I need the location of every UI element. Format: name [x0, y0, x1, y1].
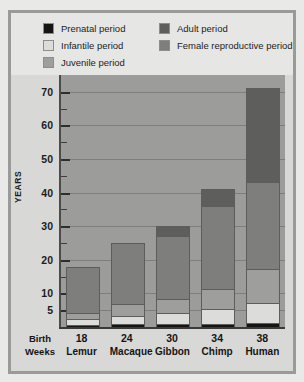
bar-gibbon[interactable] [156, 226, 190, 327]
legend-item-label: Female reproductive period [177, 40, 293, 51]
bar-segment-female-reproductive [202, 207, 234, 290]
birth-weeks-label: Birth Weeks [19, 332, 61, 358]
y-tick-label: 5 [47, 304, 53, 316]
bar-segment-adult [157, 227, 189, 237]
x-axis-category: 24Macaque [110, 332, 144, 358]
chart-legend: Prenatal periodInfantile periodJuvenile … [11, 13, 293, 75]
birth-weeks-line2: Weeks [19, 345, 61, 358]
x-axis-birth-weeks-value: 24 [110, 332, 144, 345]
y-tick-label: 60 [41, 119, 53, 131]
bar-segment-juvenile [67, 314, 99, 321]
bar-segment-adult [247, 89, 279, 183]
legend-item[interactable]: Female reproductive period [159, 37, 293, 53]
x-axis-category: 34Chimp [200, 332, 234, 358]
y-axis-ticks: 510203040506070 [25, 75, 59, 327]
bar-segment-infantile [247, 304, 279, 325]
x-axis-species-label: Gibbon [155, 345, 189, 358]
legend-item[interactable]: Adult period [159, 20, 293, 36]
bar-segment-juvenile [247, 270, 279, 303]
legend-swatch-adult-icon [159, 23, 170, 34]
chart-figure: Prenatal periodInfantile periodJuvenile … [8, 10, 296, 374]
x-axis-birth-weeks-value: 30 [155, 332, 189, 345]
y-tick-label: 50 [41, 153, 53, 165]
x-axis-category: 18Lemur [65, 332, 99, 358]
bar-segment-infantile [202, 310, 234, 324]
legend-column-right: Adult periodFemale reproductive period [159, 20, 293, 54]
plot-wrapper: YEARS 510203040506070 Birth Weeks 18Lemu… [11, 75, 293, 377]
bar-lemur[interactable] [66, 267, 100, 327]
bar-segment-female-reproductive [112, 244, 144, 305]
y-tick-label: 30 [41, 220, 53, 232]
legend-item[interactable]: Infantile period [43, 37, 125, 53]
legend-item-label: Juvenile period [61, 57, 125, 68]
bar-human[interactable] [246, 88, 280, 327]
legend-item[interactable]: Prenatal period [43, 20, 125, 36]
x-axis-categories: 18Lemur24Macaque30Gibbon34Chimp38Human [59, 332, 285, 358]
bar-segment-infantile [112, 317, 144, 325]
bar-chimp[interactable] [201, 189, 235, 327]
x-axis-category: 30Gibbon [155, 332, 189, 358]
x-axis-species-label: Chimp [200, 345, 234, 358]
x-axis-species-label: Lemur [65, 345, 99, 358]
x-axis-birth-weeks-value: 18 [65, 332, 99, 345]
legend-swatch-female-reproductive-icon [159, 40, 170, 51]
x-axis-species-label: Macaque [110, 345, 144, 358]
x-axis-birth-weeks-value: 38 [245, 332, 279, 345]
bar-segment-adult [202, 190, 234, 207]
legend-swatch-infantile-icon [43, 40, 54, 51]
bar-segment-juvenile [157, 300, 189, 313]
x-axis-species-label: Human [245, 345, 279, 358]
bar-segment-infantile [157, 314, 189, 325]
legend-swatch-juvenile-icon [43, 57, 54, 68]
y-tick-label: 20 [41, 254, 53, 266]
legend-item-label: Prenatal period [61, 23, 125, 34]
bar-segment-female-reproductive [247, 183, 279, 270]
legend-item-label: Infantile period [61, 40, 123, 51]
y-tick-label: 10 [41, 287, 53, 299]
legend-swatch-prenatal-icon [43, 23, 54, 34]
bar-group [61, 75, 285, 327]
y-axis-title: YEARS [13, 171, 23, 203]
x-axis-line [59, 327, 285, 329]
y-tick-label: 40 [41, 187, 53, 199]
x-axis: Birth Weeks 18Lemur24Macaque30Gibbon34Ch… [11, 327, 285, 377]
bar-segment-female-reproductive [157, 237, 189, 300]
bar-segment-juvenile [112, 305, 144, 317]
bar-segment-female-reproductive [67, 268, 99, 314]
plot-area [59, 75, 285, 327]
legend-item[interactable]: Juvenile period [43, 54, 125, 70]
bar-macaque[interactable] [111, 243, 145, 327]
x-axis-birth-weeks-value: 34 [200, 332, 234, 345]
x-axis-category: 38Human [245, 332, 279, 358]
legend-item-label: Adult period [177, 23, 228, 34]
legend-column-left: Prenatal periodInfantile periodJuvenile … [43, 20, 125, 71]
y-tick-label: 70 [41, 86, 53, 98]
birth-weeks-line1: Birth [19, 332, 61, 345]
bar-segment-juvenile [202, 290, 234, 310]
